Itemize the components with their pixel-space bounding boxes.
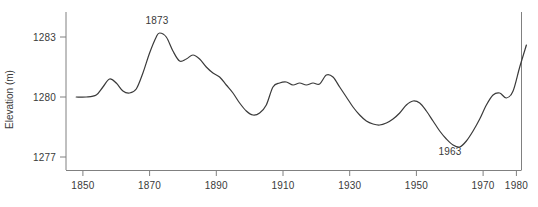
elevation-line — [76, 33, 526, 147]
x-tick-label-1870: 1870 — [138, 180, 161, 191]
y-tick-label-1280: 1280 — [22, 92, 56, 103]
y-axis-title: Elevation (m) — [4, 50, 15, 150]
x-tick-label-1930: 1930 — [338, 180, 361, 191]
x-tick-label-1910: 1910 — [271, 180, 294, 191]
x-tick-label-1980: 1980 — [505, 180, 528, 191]
y-tick-label-1277: 1277 — [22, 152, 56, 163]
annotation-peak-1873: 1873 — [145, 15, 168, 26]
data-series-group — [76, 33, 526, 147]
y-tick-label-1283: 1283 — [22, 32, 56, 43]
y-tick-marks — [60, 37, 66, 157]
elevation-line-chart: 1283 1280 1277 1850 1870 1890 1910 1930 … — [0, 0, 538, 207]
annotation-trough-1963: 1963 — [438, 146, 461, 157]
x-tick-label-1970: 1970 — [472, 180, 495, 191]
x-tick-label-1850: 1850 — [71, 180, 94, 191]
plot-area — [0, 0, 538, 207]
x-tick-label-1890: 1890 — [205, 180, 228, 191]
x-tick-label-1950: 1950 — [405, 180, 428, 191]
